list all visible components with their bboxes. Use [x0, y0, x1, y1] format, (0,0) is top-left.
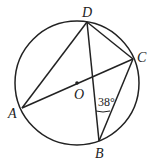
angle-label: 38° — [98, 95, 115, 109]
segment-DC — [87, 22, 133, 59]
geometry-diagram: D C A B O 38° — [0, 0, 149, 164]
label-C: C — [137, 50, 147, 65]
label-O: O — [74, 87, 84, 102]
label-A: A — [7, 106, 17, 121]
center-point-O — [75, 81, 79, 85]
segment-DB — [87, 22, 99, 141]
label-D: D — [81, 5, 92, 20]
angle-arc-B — [96, 111, 110, 112]
label-B: B — [95, 146, 104, 161]
